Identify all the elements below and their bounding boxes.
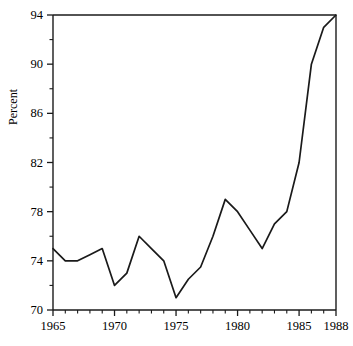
y-tick-label: 86: [17, 107, 43, 119]
y-tick-label: 70: [17, 304, 43, 316]
x-tick-label: 1970: [95, 320, 135, 332]
x-tick-label: 1965: [33, 320, 73, 332]
x-tick-label: 1985: [279, 320, 319, 332]
plot-area: [0, 0, 353, 346]
x-tick-label: 1975: [156, 320, 196, 332]
axis-lines: [53, 15, 336, 310]
y-tick-label: 78: [17, 206, 43, 218]
y-tick-label: 90: [17, 58, 43, 70]
tick-marks: [47, 15, 336, 316]
data-series-line: [53, 15, 336, 298]
x-tick-label: 1980: [218, 320, 258, 332]
y-tick-label: 74: [17, 255, 43, 267]
x-tick-label: 1988: [316, 320, 353, 332]
y-tick-label: 94: [17, 9, 43, 21]
line-chart: Percent 70747882869094 19651970197519801…: [0, 0, 353, 346]
y-tick-label: 82: [17, 157, 43, 169]
